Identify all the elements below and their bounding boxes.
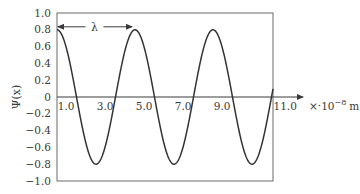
- lambda-label: λ: [91, 21, 98, 34]
- y-tick-label: −1.0: [26, 175, 52, 187]
- x-tick-label: 7.0: [175, 100, 192, 112]
- x-tick-label: 3.0: [97, 100, 114, 112]
- y-axis-label: Ψ(x): [10, 85, 23, 109]
- y-tick-label: 0.8: [34, 23, 51, 35]
- y-tick-label: −0.2: [26, 107, 52, 119]
- y-tick-labels: 1.00.80.60.40.20−0.2−0.4−0.6−0.8−1.0: [26, 7, 52, 187]
- x-tick-labels: 1.03.05.07.09.011.0: [58, 100, 297, 112]
- wave-chart: 1.00.80.60.40.20−0.2−0.4−0.6−0.8−1.0 1.0…: [0, 0, 360, 194]
- x-tick-label: 1.0: [58, 100, 75, 112]
- y-tick-label: 0.4: [34, 57, 51, 69]
- y-tick-label: 0.6: [34, 40, 51, 52]
- y-tick-label: −0.6: [26, 141, 52, 153]
- y-tick-label: −0.4: [26, 124, 52, 136]
- wavelength-annotation: λ: [58, 21, 132, 34]
- y-tick-label: 1.0: [34, 7, 51, 19]
- y-tick-label: −0.8: [26, 158, 52, 170]
- x-tick-label: 9.0: [214, 100, 231, 112]
- x-axis-unit-label: ×·10−8m: [309, 98, 359, 112]
- x-tick-label: 5.0: [136, 100, 153, 112]
- x-tick-label: 11.0: [274, 100, 297, 112]
- y-tick-label: 0: [44, 91, 51, 103]
- y-tick-label: 0.2: [34, 74, 51, 86]
